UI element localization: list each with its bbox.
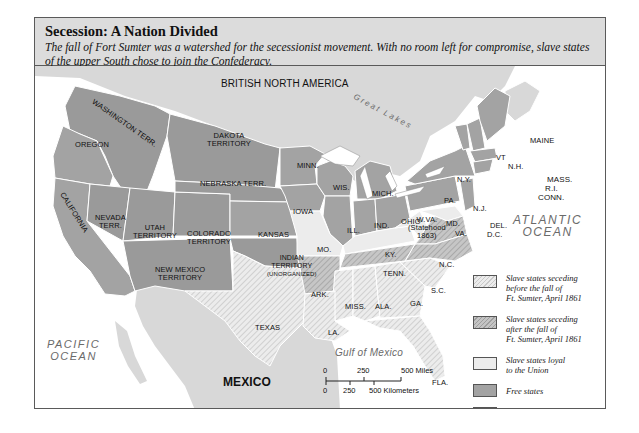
- legend-item-loyal: Slave states loyalto the Union: [473, 355, 603, 377]
- label-miss: MISS.: [345, 303, 366, 311]
- map-title: Secession: A Nation Divided: [45, 23, 595, 39]
- label-nebraska: NEBRASKA TERR.: [200, 180, 266, 188]
- label-british-north-america: BRITISH NORTH AMERICA: [221, 80, 349, 88]
- swatch-dark-hatch: [473, 316, 497, 329]
- label-mich: MICH.: [372, 190, 394, 198]
- label-ky: KY.: [385, 251, 396, 259]
- scale-bar-line: [325, 376, 435, 386]
- label-mass: MASS.: [547, 176, 572, 184]
- label-wva: W.VA.(Statehood1863): [408, 216, 446, 240]
- label-pa: PA.: [444, 197, 456, 205]
- label-gulf-of-mexico: Gulf of Mexico: [335, 347, 403, 359]
- map-header: Secession: A Nation Divided The fall of …: [35, 18, 605, 66]
- label-tenn: TENN.: [383, 270, 406, 278]
- swatch-free-territories: [473, 407, 497, 409]
- label-ala: ALA.: [375, 303, 392, 311]
- label-sc: S.C.: [431, 287, 446, 295]
- label-ill: ILL.: [347, 227, 360, 235]
- label-mo: MO.: [317, 246, 331, 254]
- label-utah: UTAHTERRITORY: [133, 224, 177, 240]
- label-new-mexico: NEW MEXICOTERRITORY: [155, 266, 205, 282]
- label-la: LA.: [328, 329, 340, 337]
- legend-item-free-states: Free states: [473, 382, 603, 400]
- label-iowa: IOWA: [293, 208, 313, 216]
- label-del: DEL.: [490, 222, 507, 230]
- conn-ri: [473, 159, 493, 174]
- label-ri: R.I.: [545, 185, 558, 193]
- label-atlantic-ocean: ATLANTIC OCEAN: [513, 214, 582, 238]
- label-ny: N.Y.: [457, 176, 471, 184]
- label-md: MD.: [446, 220, 460, 228]
- label-minn: MINN.: [297, 162, 319, 170]
- legend-item-free-territories: Free territories: [473, 405, 603, 409]
- legend-item-seceded-before: Slave states secedingbefore the fall ofF…: [473, 273, 603, 309]
- label-indian-territory: INDIANTERRITORY(UNORGANIZED): [267, 254, 317, 278]
- miss: [333, 269, 353, 321]
- map-frame: Secession: A Nation Divided The fall of …: [34, 17, 606, 409]
- label-kansas: KANSAS: [258, 231, 289, 239]
- label-ind: IND.: [374, 222, 389, 230]
- map-legend: Slave states secedingbefore the fall ofF…: [473, 273, 603, 409]
- label-maine: MAINE: [530, 137, 554, 145]
- label-ga: GA.: [410, 300, 423, 308]
- label-dc: D.C.: [487, 231, 502, 239]
- label-oregon: OREGON: [75, 141, 109, 149]
- map-area: BRITISH NORTH AMERICA Great Lakes MEXICO…: [35, 66, 606, 409]
- legend-item-seceded-after: Slave states secedingafter the fall ofFt…: [473, 314, 603, 350]
- label-texas: TEXAS: [255, 324, 280, 332]
- label-conn: CONN.: [538, 194, 564, 202]
- label-nh: N.H.: [508, 163, 523, 171]
- label-dakota: DAKOTATERRITORY: [207, 132, 251, 148]
- label-vt: VT: [496, 154, 506, 162]
- label-mexico: MEXICO: [223, 378, 271, 386]
- swatch-free-states: [473, 384, 497, 397]
- map-subtitle: The fall of Fort Sumter was a watershed …: [45, 40, 595, 68]
- label-wis: WIS.: [333, 184, 350, 192]
- label-ark: ARK.: [311, 291, 329, 299]
- label-colorado: COLORADOTERRITORY: [187, 230, 231, 246]
- label-nevada: NEVADATERR.: [95, 214, 126, 230]
- label-pacific-ocean: PACIFIC OCEAN: [47, 338, 100, 362]
- swatch-light-hatch: [473, 275, 497, 288]
- label-nc: N.C.: [439, 261, 454, 269]
- label-nj: N.J.: [473, 205, 487, 213]
- scale-bar: 0 250 500 Miles 0 250 500 Kilometers: [325, 366, 445, 396]
- swatch-light-solid: [473, 357, 497, 370]
- label-va: VA.: [455, 230, 467, 238]
